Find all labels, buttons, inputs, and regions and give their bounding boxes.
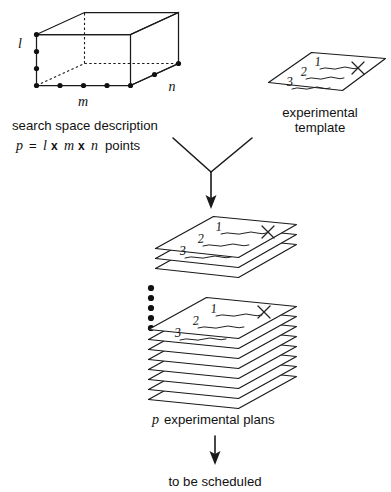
template-caption-line1: experimental [282, 105, 358, 120]
outcome-label: to be scheduled [168, 474, 261, 489]
search-space-caption-line2: p = l x m x n points [15, 138, 141, 153]
formula-l: l [43, 138, 47, 153]
axis-label-l: l [18, 36, 22, 51]
template-caption-line2: template [295, 120, 346, 135]
cuboid-front-face [37, 35, 131, 86]
formula-m: m [64, 138, 74, 153]
ellipsis-dot [148, 305, 154, 311]
flow-diagram: l m n search space description p = l x m… [0, 0, 391, 492]
grid-point [57, 83, 62, 88]
diagram-canvas: l m n search space description p = l x m… [0, 0, 391, 492]
formula-times-2: x [78, 139, 85, 153]
merge-arrow-left-branch [173, 138, 211, 172]
formula-equals: = [29, 138, 37, 153]
grid-point [104, 83, 109, 88]
plans-caption: p experimental plans [151, 412, 275, 427]
plans-ellipsis [148, 285, 154, 331]
plans-top-stack: 1 2 3 [156, 217, 297, 278]
plans-caption-p: p [151, 412, 159, 427]
search-space-cuboid: l m n [18, 13, 181, 110]
grid-point [152, 72, 157, 77]
grid-point [176, 61, 181, 66]
axis-label-n: n [169, 79, 176, 94]
grid-point [34, 32, 39, 37]
cuboid-top-face [37, 13, 179, 35]
ellipsis-dot [148, 315, 154, 321]
grid-point [34, 66, 39, 71]
arrow-down-icon [210, 436, 221, 465]
ellipsis-dot [148, 295, 154, 301]
grid-point [34, 83, 39, 88]
axis-label-m: m [78, 94, 88, 109]
grid-point [81, 83, 86, 88]
experimental-template-sheet: 1 2 3 [269, 53, 386, 91]
ellipsis-dot [148, 285, 154, 291]
search-space-caption-line1: search space description [12, 118, 158, 133]
merge-arrow-down-icon [173, 138, 252, 209]
formula-p: p [15, 138, 23, 153]
formula-times-1: x [51, 139, 58, 153]
plans-caption-rest: experimental plans [164, 412, 275, 427]
formula-n: n [91, 138, 98, 153]
cuboid-hidden-edges [37, 13, 179, 86]
merge-arrow-right-branch [211, 138, 252, 172]
grid-point [34, 49, 39, 54]
formula-points: points [105, 138, 141, 153]
plans-bottom-stack: 1 2 3 [149, 298, 297, 409]
grid-point [128, 83, 133, 88]
